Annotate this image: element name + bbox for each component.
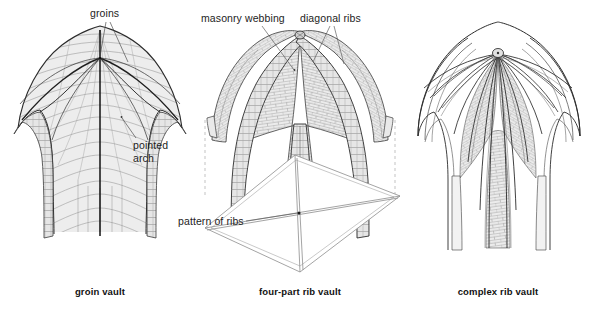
four-part-rib-vault-illustration xyxy=(205,26,400,272)
pointed-arch-leader-dot xyxy=(121,116,123,118)
masonry-webbing-leader-dot xyxy=(294,69,296,71)
label-groins: groins xyxy=(90,7,119,19)
complex-vault-left-return xyxy=(418,112,448,250)
caption-complex-rib-vault: complex rib vault xyxy=(458,286,539,297)
label-pointed-arch-line1: pointed xyxy=(133,139,168,151)
groin-vault-left-voussoirs xyxy=(14,112,53,238)
complex-vault-right-return xyxy=(550,112,580,250)
label-masonry-webbing: masonry webbing xyxy=(201,12,285,24)
label-pointed-arch-line2: arch xyxy=(133,152,154,164)
complex-right-springer xyxy=(536,176,546,250)
complex-rib-vault-illustration xyxy=(418,22,580,250)
label-pattern-of-ribs: pattern of ribs xyxy=(178,215,244,227)
label-diagonal-ribs: diagonal ribs xyxy=(300,12,361,24)
complex-vault-boss-centre xyxy=(497,52,499,54)
caption-four-part-rib-vault: four-part rib vault xyxy=(259,286,341,297)
vault-types-diagram xyxy=(0,0,598,310)
groin-crown-point xyxy=(99,57,101,59)
complex-left-springer xyxy=(452,176,462,250)
caption-groin-vault: groin vault xyxy=(75,286,125,297)
